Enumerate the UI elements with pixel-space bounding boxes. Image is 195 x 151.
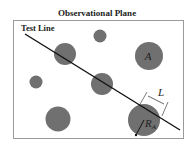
test-line-label: Test Line	[21, 23, 55, 33]
particle-circle	[30, 76, 43, 89]
length-label: L	[157, 86, 164, 98]
radius-endpoint	[135, 134, 137, 136]
area-label: A	[144, 50, 152, 62]
particle-circle	[46, 107, 71, 132]
diagram-title: Observational Plane	[58, 8, 136, 18]
observational-plane-diagram: Observational Plane Test Line A L RA	[0, 0, 195, 151]
particle-circle	[94, 30, 107, 43]
